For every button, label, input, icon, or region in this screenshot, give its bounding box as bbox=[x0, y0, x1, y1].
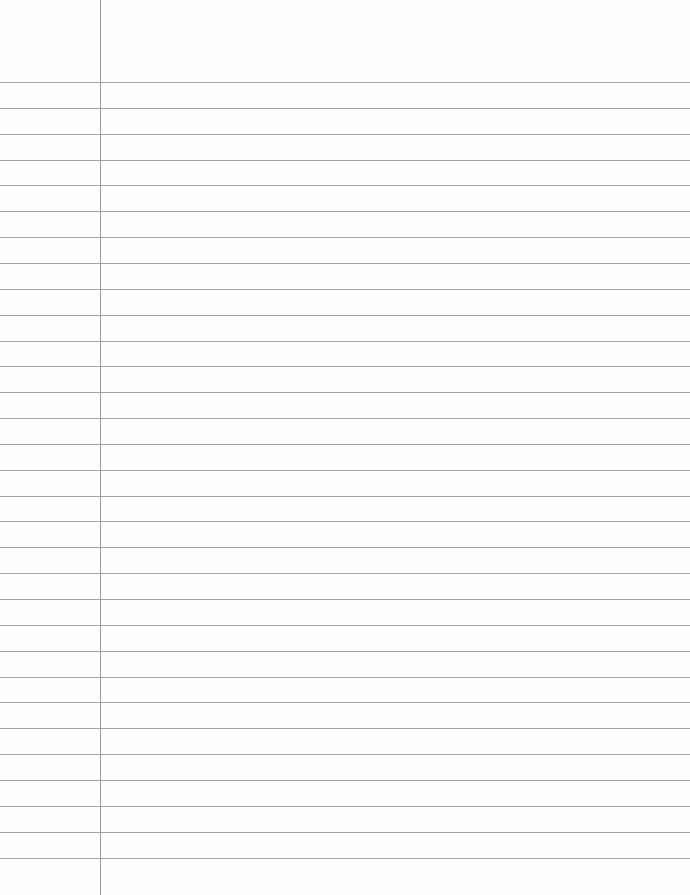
ruled-line bbox=[0, 315, 690, 316]
ruled-line bbox=[0, 573, 690, 574]
ruled-line bbox=[0, 185, 690, 186]
ruled-line bbox=[0, 599, 690, 600]
ruled-line bbox=[0, 651, 690, 652]
ruled-line bbox=[0, 211, 690, 212]
ruled-line bbox=[0, 289, 690, 290]
ruled-line bbox=[0, 806, 690, 807]
ruled-line bbox=[0, 444, 690, 445]
ruled-line bbox=[0, 625, 690, 626]
ruled-line bbox=[0, 108, 690, 109]
ruled-line bbox=[0, 832, 690, 833]
ruled-line bbox=[0, 160, 690, 161]
ruled-line bbox=[0, 341, 690, 342]
ruled-line bbox=[0, 134, 690, 135]
ruled-line bbox=[0, 858, 690, 859]
ruled-paper-page bbox=[0, 0, 690, 895]
ruled-line bbox=[0, 754, 690, 755]
ruled-line bbox=[0, 702, 690, 703]
ruled-line bbox=[0, 547, 690, 548]
ruled-line bbox=[0, 677, 690, 678]
ruled-line bbox=[0, 366, 690, 367]
ruled-line bbox=[0, 418, 690, 419]
ruled-line bbox=[0, 263, 690, 264]
ruled-line bbox=[0, 82, 690, 83]
ruled-line bbox=[0, 728, 690, 729]
ruled-line bbox=[0, 496, 690, 497]
ruled-line bbox=[0, 780, 690, 781]
ruled-line bbox=[0, 521, 690, 522]
ruled-line bbox=[0, 237, 690, 238]
ruled-line bbox=[0, 392, 690, 393]
ruled-line bbox=[0, 470, 690, 471]
